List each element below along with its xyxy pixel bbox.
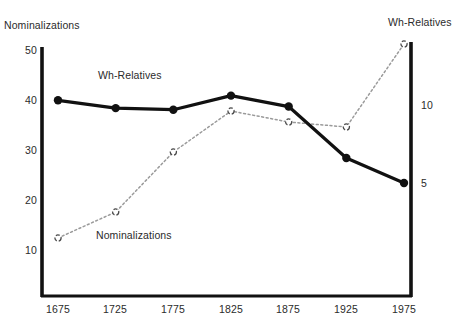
data-point-nominalizations-1725: [113, 209, 119, 215]
data-point-nominalizations-1825: [228, 108, 234, 114]
data-point-wh-relatives-1675: [54, 96, 62, 104]
data-point-nominalizations-1875: [286, 119, 292, 125]
data-point-nominalizations-1675: [55, 235, 61, 241]
data-point-wh-relatives-1875: [284, 102, 292, 110]
data-point-wh-relatives-1925: [342, 154, 350, 162]
data-point-nominalizations-1975: [401, 41, 407, 47]
data-point-wh-relatives-1975: [400, 179, 408, 187]
data-point-wh-relatives-1725: [111, 104, 119, 112]
data-point-wh-relatives-1775: [169, 105, 177, 113]
data-point-wh-relatives-1825: [227, 91, 235, 99]
data-point-nominalizations-1775: [170, 149, 176, 155]
series-markers-nominalizations: [55, 41, 407, 241]
series-line-nominalizations: [58, 44, 404, 238]
data-point-nominalizations-1925: [343, 124, 349, 130]
